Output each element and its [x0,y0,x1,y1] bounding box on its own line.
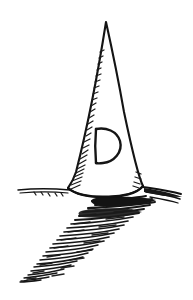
cone-illustration: D [0,0,193,300]
ink-drawing-canvas: Cone with letter D [0,0,193,300]
